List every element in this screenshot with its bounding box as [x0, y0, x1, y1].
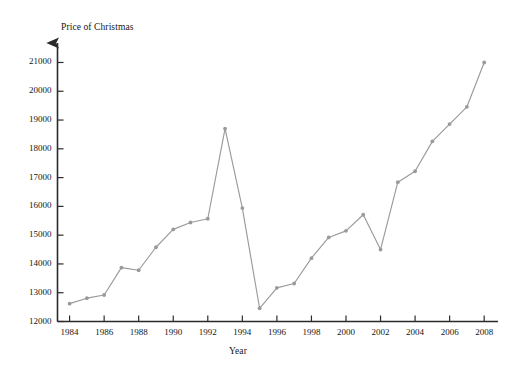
data-point	[171, 228, 175, 232]
data-point	[85, 296, 89, 300]
data-point	[344, 229, 348, 233]
x-axis-tick-label: 2004	[398, 327, 432, 337]
x-axis-ticks	[70, 316, 485, 322]
x-axis-tick-label: 1984	[53, 327, 87, 337]
x-axis-tick-label: 2002	[364, 327, 398, 337]
data-point	[137, 268, 141, 272]
data-point	[448, 122, 452, 126]
data-point	[310, 256, 314, 260]
x-axis-tick-label: 1996	[260, 327, 294, 337]
x-axis-tick-label: 2008	[467, 327, 501, 337]
data-point	[206, 217, 210, 221]
x-axis-tick-label: 1994	[225, 327, 259, 337]
data-point	[361, 213, 365, 217]
y-axis-tick-label: 17000	[14, 172, 52, 182]
x-axis-tick-label: 1992	[191, 327, 225, 337]
chart-canvas	[0, 0, 509, 373]
data-point	[465, 105, 469, 109]
data-point-markers	[68, 61, 486, 311]
data-point	[102, 293, 106, 297]
y-axis-tick-label: 20000	[14, 85, 52, 95]
y-axis-title: Price of Christmas	[61, 22, 134, 32]
data-point	[189, 221, 193, 225]
x-axis-tick-label: 2006	[433, 327, 467, 337]
data-point	[396, 180, 400, 184]
x-axis-tick-label: 2000	[329, 327, 363, 337]
data-series-line	[70, 62, 485, 308]
y-axis-tick-label: 14000	[14, 258, 52, 268]
data-point	[223, 127, 227, 131]
data-point	[482, 61, 486, 65]
data-point	[154, 245, 158, 249]
data-point	[292, 282, 296, 286]
data-point	[258, 306, 262, 310]
data-point	[275, 286, 279, 290]
y-axis-tick-label: 15000	[14, 229, 52, 239]
x-axis-tick-label: 1990	[156, 327, 190, 337]
x-axis-tick-label: 1988	[122, 327, 156, 337]
y-axis-tick-label: 21000	[14, 56, 52, 66]
y-axis-tick-label: 19000	[14, 114, 52, 124]
data-point	[327, 236, 331, 240]
y-axis-ticks	[58, 62, 64, 321]
data-point	[68, 302, 72, 306]
data-point	[379, 248, 383, 252]
data-point	[240, 206, 244, 210]
line-chart: Price of Christmas Year 1200013000140001…	[0, 0, 509, 373]
data-point	[120, 266, 124, 270]
y-axis-tick-label: 13000	[14, 287, 52, 297]
x-axis-title: Year	[229, 346, 247, 356]
data-point	[413, 169, 417, 173]
x-axis-tick-label: 1986	[87, 327, 121, 337]
data-point	[430, 139, 434, 143]
y-axis-tick-label: 18000	[14, 143, 52, 153]
y-axis-tick-label: 12000	[14, 316, 52, 326]
y-axis-tick-label: 16000	[14, 200, 52, 210]
x-axis-tick-label: 1998	[294, 327, 328, 337]
